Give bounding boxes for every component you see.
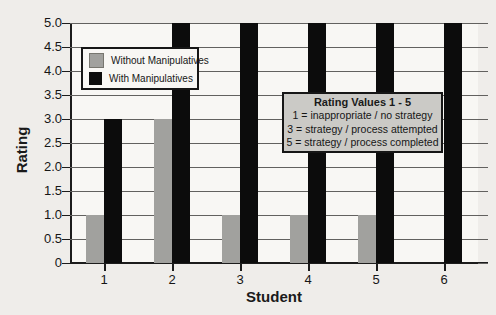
legend-item-without-manipulatives: Without Manipulatives — [89, 53, 197, 68]
y-tick-label: 2.5 — [18, 135, 62, 150]
y-tick-right — [478, 143, 488, 144]
y-tick — [62, 239, 70, 240]
bar-with-manipulatives-student-6 — [444, 23, 462, 263]
legend-item-with-manipulatives: With Manipulatives — [89, 72, 197, 85]
bar-chart-page: Rating Student Without Manipulatives Wit… — [0, 0, 496, 315]
note-line: 3 = strategy / process attempted — [287, 123, 437, 137]
gridline — [70, 23, 478, 24]
x-tick — [240, 263, 242, 271]
legend-swatch-with-manipulatives — [89, 72, 102, 85]
y-tick — [62, 23, 70, 24]
x-tick-label: 5 — [356, 272, 396, 287]
x-axis-line — [70, 262, 488, 264]
x-tick-label: 2 — [152, 272, 192, 287]
y-tick-right — [478, 71, 488, 72]
note-line: 5 = strategy / process completed — [286, 136, 438, 150]
y-tick-right — [478, 191, 488, 192]
y-tick — [62, 47, 70, 48]
bar-with-manipulatives-student-3 — [240, 23, 258, 263]
gridline — [70, 167, 478, 168]
legend-label: Without Manipulatives — [111, 55, 209, 66]
x-tick — [444, 263, 446, 271]
y-tick — [62, 95, 70, 96]
y-tick-right — [478, 95, 488, 96]
y-tick-right — [478, 119, 488, 120]
bar-without-manipulatives-student-1 — [86, 215, 104, 263]
y-tick-label: 4.5 — [18, 39, 62, 54]
x-tick — [376, 263, 378, 271]
y-tick-right — [478, 263, 488, 264]
y-tick — [62, 143, 70, 144]
bar-with-manipulatives-student-1 — [104, 119, 122, 263]
x-axis-title: Student — [246, 288, 302, 305]
y-tick-label: 0 — [18, 255, 62, 270]
gridline — [70, 215, 478, 216]
bar-without-manipulatives-student-3 — [222, 215, 240, 263]
y-tick-label: 4.0 — [18, 63, 62, 78]
y-tick-label: 3.0 — [18, 111, 62, 126]
gridline — [70, 239, 478, 240]
note-title: Rating Values 1 - 5 — [314, 95, 411, 109]
y-tick-right — [478, 239, 488, 240]
y-tick-label: 1.0 — [18, 207, 62, 222]
y-tick — [62, 263, 70, 264]
y-tick — [62, 167, 70, 168]
y-tick-right — [478, 47, 488, 48]
x-tick-label: 3 — [220, 272, 260, 287]
x-tick — [308, 263, 310, 271]
y-tick-label: 2.0 — [18, 159, 62, 174]
x-tick — [104, 263, 106, 271]
y-tick-right — [478, 167, 488, 168]
x-tick-label: 1 — [84, 272, 124, 287]
y-tick-label: 1.5 — [18, 183, 62, 198]
legend-label: With Manipulatives — [109, 73, 193, 84]
y-tick-right — [478, 23, 488, 24]
y-tick — [62, 119, 70, 120]
bar-without-manipulatives-student-5 — [358, 215, 376, 263]
legend-swatch-without-manipulatives — [89, 53, 104, 68]
x-tick-label: 6 — [424, 272, 464, 287]
x-tick-label: 4 — [288, 272, 328, 287]
note-line: 1 = inappropriate / no strategy — [293, 109, 433, 123]
y-tick-label: 3.5 — [18, 87, 62, 102]
bar-without-manipulatives-student-4 — [290, 215, 308, 263]
x-tick — [172, 263, 174, 271]
bar-without-manipulatives-student-2 — [154, 119, 172, 263]
y-tick — [62, 191, 70, 192]
legend: Without Manipulatives With Manipulatives — [81, 47, 199, 90]
y-tick-label: 0.5 — [18, 231, 62, 246]
y-tick — [62, 71, 70, 72]
rating-values-note: Rating Values 1 - 5 1 = inappropriate / … — [282, 92, 443, 153]
y-tick-label: 5.0 — [18, 15, 62, 30]
gridline — [70, 191, 478, 192]
y-tick-right — [478, 215, 488, 216]
y-tick — [62, 215, 70, 216]
